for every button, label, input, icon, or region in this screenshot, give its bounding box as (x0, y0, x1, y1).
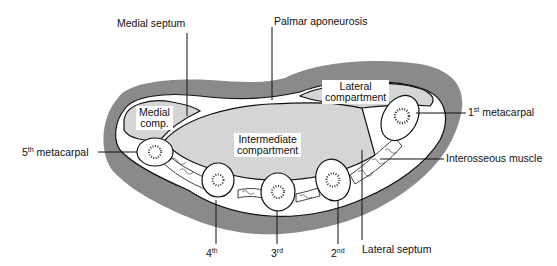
fourth-metacarpal-bone (202, 163, 234, 197)
third-metacarpal-bone (261, 173, 295, 211)
palmar-aponeurosis-label: Palmar aponeurosis (274, 16, 367, 27)
lateral-septum-label: Lateral septum (362, 244, 431, 255)
third-metacarpal-label: 3rd (271, 247, 283, 259)
fifth-metacarpal-bone (137, 138, 173, 166)
second-metacarpal-label: 2nd (331, 247, 345, 259)
medial-septum-label: Medial septum (117, 18, 185, 29)
medial-compartment-label: Medialcomp. (136, 106, 173, 130)
fifth-metacarpal-label: 5th metacarpal (22, 146, 89, 158)
intermediate-compartment-label: Intermediatecompartment (234, 133, 301, 157)
first-metacarpal-label: 1st metacarpal (468, 106, 534, 118)
fourth-metacarpal-label: 4th (206, 247, 218, 259)
interosseous-muscle-label: Interosseous muscle (446, 153, 542, 164)
lateral-compartment-label: Lateralcompartment (322, 80, 389, 104)
